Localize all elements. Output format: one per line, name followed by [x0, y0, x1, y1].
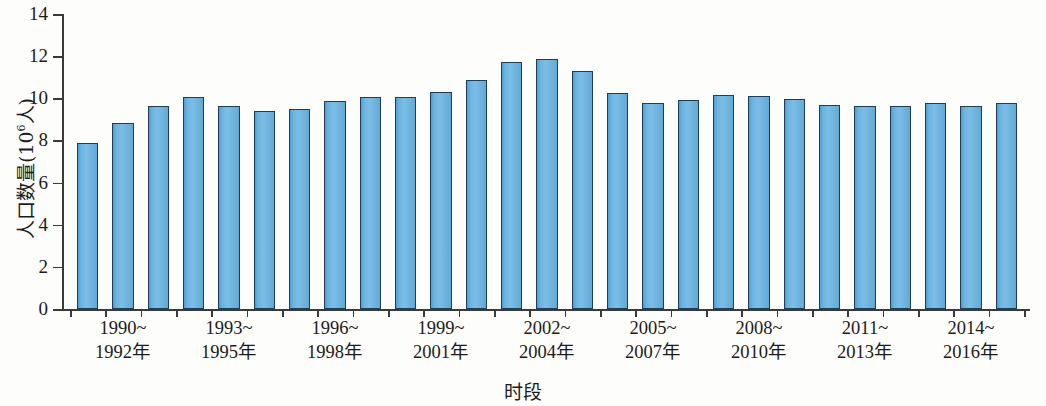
bar: [501, 62, 522, 309]
x-axis-group-label-end: 2001年: [381, 340, 501, 364]
x-axis-group-label: 1999~2001年: [381, 316, 501, 365]
y-axis-tick: 2: [53, 267, 62, 269]
y-axis-tick: 6: [53, 183, 62, 185]
bar: [360, 97, 381, 309]
y-axis-tick-label: 6: [39, 172, 49, 194]
y-axis-tick-label: 10: [29, 87, 48, 109]
bar: [854, 106, 875, 309]
bar: [748, 96, 769, 309]
bar: [536, 59, 557, 309]
x-axis-group-label-end: 2016年: [911, 340, 1031, 364]
x-axis-group-label: 1996~1998年: [275, 316, 395, 365]
y-axis-tick: 14: [53, 14, 62, 16]
bar: [960, 106, 981, 309]
x-axis-line: [62, 309, 1030, 311]
bar: [784, 99, 805, 309]
x-axis-group-label-start: 1990~: [99, 318, 146, 338]
bar: [218, 106, 239, 309]
bar: [324, 101, 345, 309]
y-axis-line: [62, 14, 64, 311]
x-axis-group-label: 2005~2007年: [593, 316, 713, 365]
x-axis-group-label-start: 2011~: [842, 318, 888, 338]
x-axis-group-label: 2011~2013年: [805, 316, 925, 365]
x-axis-group-label: 2008~2010年: [699, 316, 819, 365]
x-axis-group-label-end: 2013年: [805, 340, 925, 364]
x-axis-group-label-end: 1998年: [275, 340, 395, 364]
y-axis-tick: 10: [53, 98, 62, 100]
bar: [642, 103, 663, 310]
y-axis-tick-label: 14: [29, 3, 48, 25]
x-axis-group-label-start: 2002~: [523, 318, 570, 338]
y-axis-title-exponent: 6: [15, 124, 28, 131]
bar: [466, 80, 487, 309]
x-axis-group-label-end: 1992年: [63, 340, 183, 364]
bar: [819, 105, 840, 309]
x-axis-group-label: 1990~1992年: [63, 316, 183, 365]
bar: [254, 111, 275, 309]
x-axis-group-label: 2014~2016年: [911, 316, 1031, 365]
y-axis-tick-label: 4: [39, 214, 49, 236]
y-axis-tick: 8: [53, 140, 62, 142]
y-axis-tick: 12: [53, 56, 62, 58]
bar: [996, 103, 1017, 310]
x-axis-group-label-end: 2004年: [487, 340, 607, 364]
bar: [77, 143, 98, 309]
bar: [572, 71, 593, 309]
bar: [148, 106, 169, 309]
y-axis-tick: 4: [53, 225, 62, 227]
x-axis-group-label-end: 2010年: [699, 340, 819, 364]
y-axis-tick-label: 12: [29, 45, 48, 67]
x-axis-group-label: 2002~2004年: [487, 316, 607, 365]
x-axis-group-label-end: 1995年: [169, 340, 289, 364]
x-axis-group-label-start: 2014~: [947, 318, 994, 338]
y-axis-tick-label: 0: [39, 298, 49, 320]
x-axis-group-label-start: 1996~: [311, 318, 358, 338]
x-axis-group-label-start: 2008~: [735, 318, 782, 338]
x-axis-group-label-start: 1999~: [417, 318, 464, 338]
plot-area: 02468101214: [62, 14, 1030, 311]
bar: [607, 93, 628, 309]
x-axis-group-label-end: 2007年: [593, 340, 713, 364]
bar: [183, 97, 204, 309]
y-axis-tick-label: 8: [39, 129, 49, 151]
y-axis-tick-label: 2: [39, 256, 49, 278]
bar: [713, 95, 734, 309]
y-axis-title-base: 人口数量(10: [15, 131, 37, 239]
x-axis-group-label: 1993~1995年: [169, 316, 289, 365]
population-bar-chart: 人口数量(106人) 02468101214 1990~1992年1993~19…: [0, 0, 1046, 406]
y-axis-title: 人口数量(106人): [11, 44, 38, 294]
bar: [430, 92, 451, 309]
bar: [395, 97, 416, 309]
bar: [925, 103, 946, 310]
bar: [678, 100, 699, 309]
x-axis-group-label-start: 1993~: [205, 318, 252, 338]
y-axis-tick: 0: [53, 309, 62, 311]
x-axis-title: 时段: [0, 377, 1046, 404]
bar: [112, 123, 133, 309]
bar: [289, 109, 310, 309]
x-axis-group-label-start: 2005~: [629, 318, 676, 338]
bar: [890, 106, 911, 309]
